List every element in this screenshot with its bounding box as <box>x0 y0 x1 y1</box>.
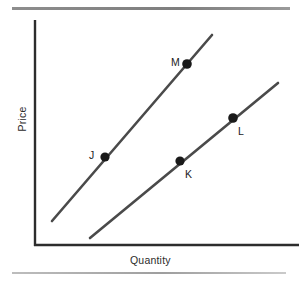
data-point-j <box>100 152 109 161</box>
supply-curve-figure: Price Quantity J M K L <box>0 0 299 285</box>
data-point-l <box>228 113 238 123</box>
data-point-label-l: L <box>238 125 244 137</box>
data-point-m <box>182 59 192 69</box>
x-axis-label: Quantity <box>130 254 171 266</box>
y-axis-label: Price <box>16 107 28 132</box>
chart-canvas <box>0 0 299 285</box>
data-point-label-m: M <box>171 56 180 68</box>
data-point-label-k: K <box>185 168 192 180</box>
data-point-label-j: J <box>89 149 94 161</box>
data-point-k <box>175 156 184 165</box>
